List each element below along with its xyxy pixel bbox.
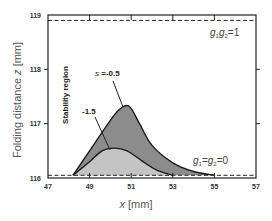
g1-equals-g2-equals-0-label: g1=g2=0 bbox=[193, 155, 228, 167]
x-tick-label: 57 bbox=[252, 183, 260, 190]
y-axis-label: Folding distance z [mm] bbox=[11, 42, 23, 158]
y-tick-label: 116 bbox=[30, 175, 41, 182]
y-tick-label: 118 bbox=[30, 66, 41, 73]
x-tick-label: 53 bbox=[169, 183, 177, 190]
s-05-leader-line bbox=[113, 81, 123, 107]
g1g2-equals-1-label: g1g2=1 bbox=[210, 27, 240, 39]
y-tick-label: 117 bbox=[30, 120, 41, 127]
x-tick-label: 55 bbox=[211, 183, 219, 190]
x-axis-label: x [mm] bbox=[119, 198, 153, 210]
stability-region-label: Stability region bbox=[61, 66, 70, 124]
stability-chart: 474951535557 116117118119 Folding distan… bbox=[0, 0, 272, 221]
s-15-label: -1.5 bbox=[82, 107, 96, 116]
x-tick-label: 51 bbox=[127, 183, 135, 190]
s-05-label: s =-0.5 bbox=[95, 69, 120, 78]
y-tick-label: 119 bbox=[30, 12, 41, 19]
x-tick-label: 49 bbox=[86, 183, 94, 190]
x-tick-label: 47 bbox=[44, 183, 52, 190]
